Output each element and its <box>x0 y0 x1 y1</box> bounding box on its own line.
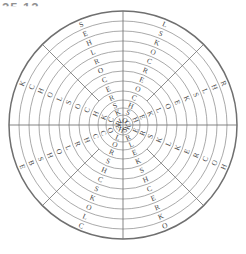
letter-r4-s8: L <box>89 47 97 57</box>
letter-r2-s6: B <box>26 159 36 167</box>
letter-r8-s5: S <box>104 156 111 166</box>
letter-r7-s3: L <box>163 139 173 147</box>
letter-r4-s2: S <box>191 91 201 98</box>
letter-r5-s1: C <box>145 56 153 66</box>
letter-r1-s5: C <box>77 221 85 231</box>
letter-r1-s2: R <box>219 79 229 87</box>
letter-r5-s7: L <box>54 94 64 102</box>
letter-r3-s3: C <box>200 155 210 163</box>
letter-r7-s8: C <box>100 75 108 85</box>
letter-r7-s6: R <box>73 140 83 148</box>
letter-r6-s2: E <box>172 99 182 107</box>
letter-r1-s6: E <box>17 163 27 171</box>
letter-r5-s8: R <box>93 56 101 66</box>
letter-r3-s6: S <box>36 155 46 162</box>
letter-r6-s6: L <box>63 144 73 152</box>
letter-r4-s3: R <box>191 151 201 159</box>
letter-r2-s5: L <box>81 211 89 221</box>
letter-r4-s4: E <box>149 193 157 203</box>
letter-r5-s3: E <box>182 147 192 155</box>
letter-r1-s1: L <box>161 19 169 29</box>
letter-r3-s4: R <box>153 202 161 212</box>
letter-r6-s5: C <box>96 174 104 184</box>
letter-r1-s8: S <box>78 19 85 29</box>
letter-r5-s4: C <box>145 184 153 194</box>
letter-r5-s5: S <box>93 184 100 194</box>
letter-r3-s2: L <box>200 87 210 95</box>
letter-r2-s8: E <box>81 28 89 38</box>
letter-r6-s1: R <box>142 65 150 75</box>
circular-letter-wheel-figure: LRHOCEKSSHOKLBCEKLCROSHHOSREKHOLCKECSOLR… <box>0 0 246 254</box>
letter-r2-s1: S <box>157 29 164 39</box>
letter-r2-s7: C <box>26 83 36 91</box>
letter-r7-s1: E <box>138 75 146 85</box>
letter-r6-s7: S <box>64 99 74 106</box>
letter-r7-s4: S <box>138 165 145 175</box>
